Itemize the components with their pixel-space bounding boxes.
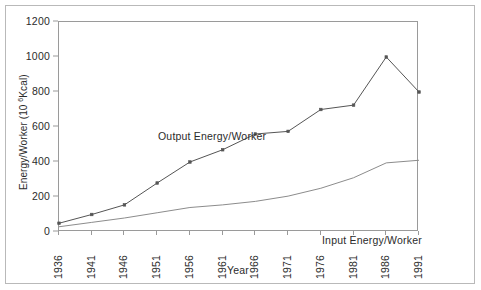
x-axis-tick-mark bbox=[287, 231, 288, 235]
data-point-marker bbox=[221, 148, 224, 151]
x-axis-title: Year bbox=[58, 264, 418, 276]
y-axis-tick-label: 400 bbox=[32, 155, 50, 167]
y-axis-tick-label: 800 bbox=[32, 85, 50, 97]
y-axis-tick-label: 200 bbox=[32, 190, 50, 202]
x-axis-tick-mark bbox=[353, 231, 354, 235]
x-axis-tick-mark bbox=[385, 231, 386, 235]
x-axis-tick-mark bbox=[156, 231, 157, 235]
y-axis-tick-label: 1200 bbox=[26, 15, 50, 27]
series-line bbox=[59, 160, 419, 227]
x-axis-tick-mark bbox=[222, 231, 223, 235]
y-axis-tick-label: 0 bbox=[44, 225, 50, 237]
data-point-marker bbox=[123, 204, 126, 207]
x-axis-tick-mark bbox=[320, 231, 321, 235]
series-canvas bbox=[59, 22, 419, 232]
data-point-marker bbox=[385, 56, 388, 59]
data-point-marker bbox=[287, 130, 290, 133]
data-point-marker bbox=[320, 108, 323, 111]
data-point-marker bbox=[156, 182, 159, 185]
data-point-marker bbox=[189, 161, 192, 164]
y-axis-ticks: 020040060080010001200 bbox=[0, 0, 58, 252]
x-axis-tick-mark bbox=[123, 231, 124, 235]
data-point-marker bbox=[58, 222, 61, 225]
y-axis-tick-label: 1000 bbox=[26, 50, 50, 62]
data-point-marker bbox=[352, 104, 355, 107]
data-point-marker bbox=[90, 213, 93, 216]
plot-area: Output Energy/Worker Input Energy/Worker bbox=[58, 21, 418, 231]
x-axis-tick-mark bbox=[91, 231, 92, 235]
series-input bbox=[59, 160, 419, 227]
x-axis-tick-mark bbox=[58, 231, 59, 235]
x-axis-tick-mark bbox=[418, 231, 419, 235]
series-label-output: Output Energy/Worker bbox=[158, 130, 266, 142]
chart-figure: Energy/Worker (10 6Kcal) 020040060080010… bbox=[0, 0, 481, 290]
x-axis-tick-mark bbox=[189, 231, 190, 235]
y-axis-tick-label: 600 bbox=[32, 120, 50, 132]
x-axis-tick-mark bbox=[254, 231, 255, 235]
data-point-marker bbox=[418, 91, 421, 94]
